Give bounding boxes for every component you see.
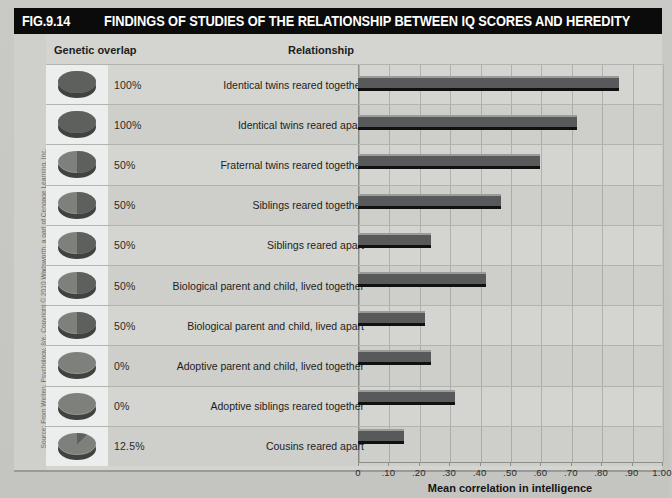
disc-top <box>58 111 96 133</box>
disc-top <box>58 272 96 294</box>
disc-top <box>58 393 96 415</box>
disc-slice <box>58 433 96 455</box>
bar <box>358 429 404 444</box>
axis-tick <box>480 462 481 466</box>
genetic-overlap-percent: 50% <box>108 159 160 171</box>
bar <box>358 154 540 169</box>
genetic-overlap-disc-cell <box>46 306 108 345</box>
gridline <box>663 64 664 462</box>
pie-disc-icon <box>58 111 96 138</box>
pie-disc-icon <box>58 272 96 299</box>
axis-tick-label: .50 <box>503 467 517 478</box>
axis-tick-label: .40 <box>473 467 487 478</box>
genetic-overlap-disc-cell <box>46 65 108 104</box>
axis-tick-label: .20 <box>412 467 426 478</box>
axis-tick <box>358 462 359 466</box>
bar-row <box>358 260 662 299</box>
genetic-overlap-disc-cell <box>46 226 108 265</box>
genetic-overlap-percent: 50% <box>108 199 160 211</box>
source-credit-strip: Source: From Weiten, Psychology, 8/e, Co… <box>14 34 46 470</box>
figure-title: FINDINGS OF STUDIES OF THE RELATIONSHIP … <box>104 13 630 29</box>
bar <box>358 194 501 209</box>
axis-tick <box>388 462 389 466</box>
x-axis-title: Mean correlation in intelligence <box>358 482 662 494</box>
genetic-overlap-disc-cell <box>46 387 108 426</box>
pie-disc-icon <box>58 433 96 460</box>
bar <box>358 311 425 326</box>
chart-panel: Source: From Weiten, Psychology, 8/e, Co… <box>14 34 662 472</box>
axis-tick <box>449 462 450 466</box>
axis-tick-label: .60 <box>533 467 547 478</box>
axis-tick-label: .90 <box>625 467 639 478</box>
figure-number: FIG.9.14 <box>14 13 70 29</box>
axis-tick-label: .10 <box>381 467 395 478</box>
axis-tick <box>571 462 572 466</box>
genetic-overlap-disc-cell <box>46 105 108 144</box>
disc-top <box>58 71 96 93</box>
disc-slice <box>58 71 96 93</box>
relationship-label: Adoptive siblings reared together <box>160 400 374 412</box>
relationship-label: Siblings reared apart <box>160 239 374 251</box>
axis-tick-label: .80 <box>594 467 608 478</box>
bar-row <box>358 417 662 456</box>
column-header-relationship: Relationship <box>164 44 354 56</box>
genetic-overlap-percent: 12.5% <box>108 440 160 452</box>
disc-slice <box>58 312 96 334</box>
bar <box>358 390 455 405</box>
pie-disc-icon <box>58 71 96 98</box>
x-axis: 0.10.20.30.40.50.60.70.80.901.00 <box>358 462 662 463</box>
bar-row <box>358 103 662 142</box>
bar-row <box>358 182 662 221</box>
disc-slice <box>58 232 96 254</box>
bar <box>358 272 486 287</box>
axis-tick <box>601 462 602 466</box>
bar-row <box>358 378 662 417</box>
bar-row <box>358 338 662 377</box>
relationship-label: Fraternal twins reared together <box>160 159 374 171</box>
genetic-overlap-disc-cell <box>46 346 108 385</box>
genetic-overlap-percent: 50% <box>108 320 160 332</box>
bar <box>358 350 431 365</box>
axis-tick-label: .70 <box>564 467 578 478</box>
disc-top <box>58 151 96 173</box>
genetic-overlap-disc-cell <box>46 186 108 225</box>
disc-slice <box>58 111 96 133</box>
axis-tick <box>662 462 663 466</box>
genetic-overlap-percent: 0% <box>108 360 160 372</box>
axis-tick-label: 1.00 <box>652 467 671 478</box>
bar <box>358 115 577 130</box>
pie-disc-icon <box>58 232 96 259</box>
relationship-label: Cousins reared apart <box>160 440 374 452</box>
disc-top <box>58 232 96 254</box>
axis-tick <box>632 462 633 466</box>
axis-tick <box>540 462 541 466</box>
pie-disc-icon <box>58 393 96 420</box>
bar-row <box>358 299 662 338</box>
genetic-overlap-percent: 50% <box>108 280 160 292</box>
genetic-overlap-disc-cell <box>46 266 108 305</box>
disc-top <box>58 433 96 455</box>
bar-row <box>358 142 662 181</box>
pie-disc-icon <box>58 192 96 219</box>
pie-disc-icon <box>58 151 96 178</box>
disc-slice <box>58 192 96 214</box>
relationship-label: Biological parent and child, lived toget… <box>160 280 374 292</box>
axis-tick <box>419 462 420 466</box>
relationship-label: Adoptive parent and child, lived togethe… <box>160 360 374 372</box>
bar-row <box>358 64 662 103</box>
figure-title-bar: FIG.9.14 FINDINGS OF STUDIES OF THE RELA… <box>14 8 662 34</box>
disc-slice <box>58 151 96 173</box>
disc-top <box>58 312 96 334</box>
bar-row <box>358 221 662 260</box>
disc-top <box>58 192 96 214</box>
axis-tick <box>510 462 511 466</box>
genetic-overlap-percent: 100% <box>108 119 160 131</box>
genetic-overlap-percent: 0% <box>108 400 160 412</box>
relationship-label: Identical twins reared together <box>160 79 374 91</box>
disc-slice <box>58 272 96 294</box>
genetic-overlap-disc-cell <box>46 427 108 466</box>
bar-series <box>358 64 662 462</box>
bar <box>358 76 619 91</box>
relationship-label: Biological parent and child, lived apart <box>160 320 374 332</box>
